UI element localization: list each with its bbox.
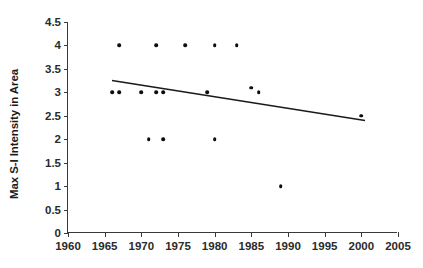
x-axis-tick-mark <box>398 232 399 237</box>
plot-area: 00.511.522.533.544.5 1960196519701975198… <box>67 22 397 233</box>
y-axis-title: Max S-I Intensity in Area <box>8 69 20 199</box>
trendline <box>68 22 398 233</box>
scatter-chart: Max S-I Intensity in Area 00.511.522.533… <box>0 0 423 268</box>
trendline-segment <box>112 81 365 121</box>
